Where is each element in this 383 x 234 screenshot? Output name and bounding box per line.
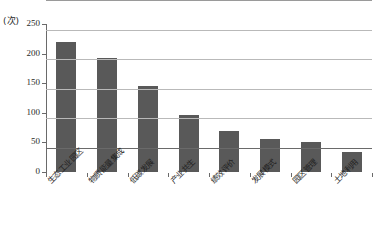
gridline-50 [46, 118, 372, 119]
x-tick-mark [128, 173, 129, 177]
y-tick-label: 250 [10, 19, 40, 28]
y-tick-label: 150 [10, 78, 40, 87]
x-tick-mark [250, 173, 251, 177]
y-tick-mark [42, 83, 46, 84]
y-tick-label: 50 [10, 137, 40, 146]
gridline-100 [46, 89, 372, 90]
bar-chart: (次) 050100150200250生态工业园区物质能量集成低碳发展产业共生绩… [0, 0, 383, 234]
y-tick-mark [42, 113, 46, 114]
y-tick-mark [42, 142, 46, 143]
x-tick-mark [331, 173, 332, 177]
gridline-250 [46, 0, 372, 1]
y-tick-label: 0 [10, 167, 40, 176]
y-tick-mark [42, 54, 46, 55]
x-tick-mark [291, 173, 292, 177]
gridline-150 [46, 59, 372, 60]
gridline-200 [46, 30, 372, 31]
x-tick-mark [372, 173, 373, 177]
gridline-0 [46, 148, 372, 149]
y-tick-mark [42, 24, 46, 25]
x-tick-mark [87, 173, 88, 177]
y-tick-label: 200 [10, 49, 40, 58]
x-tick-mark [168, 173, 169, 177]
bar-series [46, 24, 372, 172]
y-tick-label: 100 [10, 108, 40, 117]
